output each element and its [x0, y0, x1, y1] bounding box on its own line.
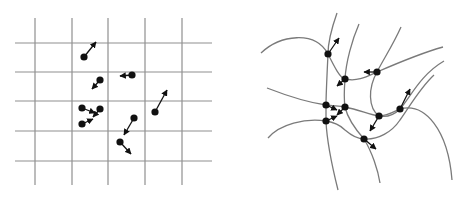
particle-dot	[96, 105, 103, 112]
particle-dot	[341, 75, 348, 82]
mesh-curve	[344, 24, 380, 183]
mesh-curve	[370, 27, 444, 116]
particle-dot	[78, 104, 85, 111]
mesh-deformation-diagram	[0, 0, 464, 202]
particle-dot	[151, 108, 158, 115]
particle-dot	[373, 68, 380, 75]
mesh-curve	[268, 75, 434, 139]
particle-dot	[78, 120, 85, 127]
particle-dot	[128, 71, 135, 78]
particle-dot	[322, 117, 329, 124]
mesh-curve	[326, 13, 338, 190]
particle-dot	[360, 135, 367, 142]
particle-dot	[80, 53, 87, 60]
particle-dot	[396, 105, 403, 112]
particle-dot	[322, 101, 329, 108]
regular-grid-panel	[15, 18, 212, 185]
particle-dot	[341, 103, 348, 110]
diagram-stage	[0, 0, 464, 202]
deformed-mesh-panel	[261, 13, 452, 190]
particle-dot	[375, 112, 382, 119]
particle-dot	[130, 114, 137, 121]
particle-dot	[324, 50, 331, 57]
particle-dot	[96, 76, 103, 83]
particle-dot	[116, 138, 123, 145]
